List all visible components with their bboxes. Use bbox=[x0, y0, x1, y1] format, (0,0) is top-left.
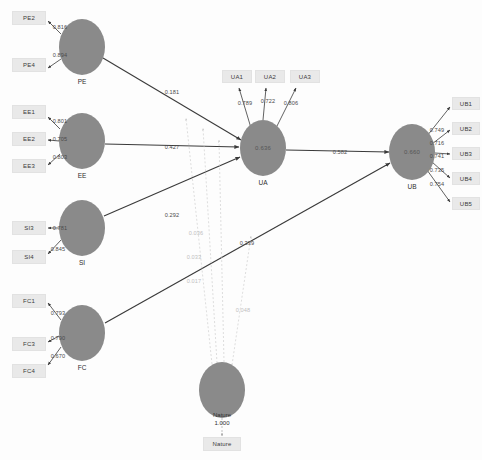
indicator-natureind: Nature bbox=[203, 437, 241, 451]
loading-ub-ub2: 0.716 bbox=[430, 140, 445, 146]
loading-ua-ua3: 0.806 bbox=[284, 100, 299, 106]
indicator-fc3: FC3 bbox=[12, 337, 46, 351]
construct-ua: 0.636 bbox=[240, 120, 286, 176]
moderation-coefficient-si-ua: 0.017 bbox=[187, 278, 202, 284]
construct-nature bbox=[199, 362, 245, 418]
moderator-loading: 1.000 bbox=[213, 420, 231, 428]
loading-ua-ua2: 0.722 bbox=[261, 98, 276, 104]
moderation-coefficient-ee-ua: 0.033 bbox=[187, 254, 202, 260]
loading-fc-fc1: 0.793 bbox=[51, 310, 66, 316]
loading-pe-pe2: 0.816 bbox=[53, 24, 68, 30]
path-coefficient-fc-ub: 0.339 bbox=[240, 240, 255, 246]
construct-label-ua: UA bbox=[258, 179, 267, 186]
construct-label-fc: FC bbox=[78, 364, 87, 371]
loading-si-si4: 0.845 bbox=[51, 246, 66, 252]
indicator-ee2: EE2 bbox=[12, 132, 46, 146]
mod-nature-ee-ua bbox=[203, 128, 217, 363]
mod-nature-pe-ua bbox=[186, 118, 212, 364]
loading-ee-ee3: 0.803 bbox=[53, 154, 68, 160]
sem-diagram-canvas: PE2PE4EE1EE2EE3SI3SI4FC1FC3FC4UA1UA2UA3U… bbox=[0, 0, 482, 460]
indicator-si4: SI4 bbox=[12, 250, 46, 264]
indicator-si3: SI3 bbox=[12, 221, 46, 235]
loading-si-si3: 0.781 bbox=[53, 225, 68, 231]
indicator-ua3: UA3 bbox=[290, 70, 320, 83]
indicator-ub4: UB4 bbox=[452, 172, 480, 185]
construct-ub: 0.660 bbox=[389, 124, 435, 180]
moderation-coefficient-fc-ub: 0.048 bbox=[236, 307, 251, 313]
path-coefficient-si-ua: 0.292 bbox=[165, 212, 180, 218]
indicator-ua2: UA2 bbox=[255, 70, 285, 83]
indicator-ub3: UB3 bbox=[452, 147, 480, 160]
construct-label-ub: UB bbox=[407, 183, 416, 190]
moderator-caption: Nature 1.000 bbox=[213, 412, 231, 427]
indicator-pe4: PE4 bbox=[12, 58, 46, 72]
construct-label-pe: PE bbox=[78, 78, 87, 85]
construct-fc bbox=[59, 305, 105, 361]
edge-pe-pe4 bbox=[48, 59, 61, 68]
loading-pe-pe4: 0.894 bbox=[53, 52, 68, 58]
loading-ub-ub1: 0.749 bbox=[430, 127, 445, 133]
indicator-ee3: EE3 bbox=[12, 159, 46, 173]
path-pe-ua bbox=[103, 58, 241, 140]
mod-nature-si-ua bbox=[219, 140, 224, 362]
indicator-ua1: UA1 bbox=[222, 70, 252, 83]
moderation-coefficient-pe-ua: 0.036 bbox=[189, 230, 204, 236]
loading-ee-ee1: 0.801 bbox=[53, 118, 68, 124]
indicator-ub5: UB5 bbox=[452, 197, 480, 210]
loading-ub-ub5: 0.754 bbox=[430, 181, 445, 187]
path-coefficient-ua-ub: 0.582 bbox=[333, 149, 348, 155]
indicator-fc1: FC1 bbox=[12, 294, 46, 308]
mod-nature-fc-ub bbox=[232, 236, 251, 365]
indicator-pe2: PE2 bbox=[12, 11, 46, 25]
loading-ub-ub4: 0.735 bbox=[430, 167, 445, 173]
path-coefficient-ee-ua: 0.427 bbox=[165, 144, 180, 150]
moderator-name: Nature bbox=[213, 412, 231, 420]
indicator-fc4: FC4 bbox=[12, 364, 46, 378]
structural-edges bbox=[103, 58, 390, 323]
loading-ee-ee2: 0.705 bbox=[53, 136, 68, 142]
r2-value-ua: 0.636 bbox=[255, 145, 271, 151]
construct-label-si: SI bbox=[79, 259, 85, 266]
loading-fc-fc3: 0.790 bbox=[51, 335, 66, 341]
loading-ua-ua1: 0.789 bbox=[238, 100, 253, 106]
edge-ua-ua1 bbox=[239, 88, 251, 128]
r2-value-ub: 0.660 bbox=[404, 149, 420, 155]
loading-fc-fc4: 0.670 bbox=[51, 353, 66, 359]
edge-ua-ua3 bbox=[276, 88, 296, 128]
construct-label-ee: EE bbox=[78, 172, 87, 179]
indicator-ub2: UB2 bbox=[452, 122, 480, 135]
edge-ua-ua2 bbox=[263, 88, 266, 120]
indicator-ub1: UB1 bbox=[452, 97, 480, 110]
path-coefficient-pe-ua: 0.181 bbox=[165, 89, 180, 95]
loading-ub-ub3: 0.741 bbox=[430, 153, 445, 159]
indicator-ee1: EE1 bbox=[12, 105, 46, 119]
